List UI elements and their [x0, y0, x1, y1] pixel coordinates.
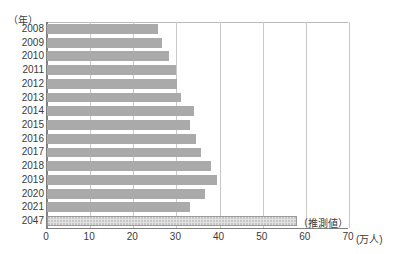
bar-2016	[47, 134, 196, 144]
bar-row	[47, 79, 349, 89]
y-tick-2019: 2019	[0, 174, 44, 185]
bar-2011	[47, 65, 176, 75]
x-tick-60: 60	[299, 231, 310, 242]
x-tick-50: 50	[256, 231, 267, 242]
x-tick-70: 70	[342, 231, 353, 242]
bar-row	[47, 65, 349, 75]
forecast-annotation: （推測値）	[298, 215, 348, 230]
bar-2009	[47, 38, 162, 48]
bar-2014	[47, 106, 194, 116]
y-tick-2008: 2008	[0, 23, 44, 34]
y-tick-2015: 2015	[0, 119, 44, 130]
bar-2019	[47, 175, 217, 185]
y-tick-2018: 2018	[0, 160, 44, 171]
bar-row	[47, 106, 349, 116]
bar-row	[47, 189, 349, 199]
y-tick-2012: 2012	[0, 78, 44, 89]
y-tick-2047: 2047	[0, 215, 44, 226]
y-tick-2010: 2010	[0, 50, 44, 61]
bar-row	[47, 161, 349, 171]
bar-row	[47, 38, 349, 48]
y-tick-2021: 2021	[0, 201, 44, 212]
bar-2013	[47, 93, 181, 103]
x-tick-10: 10	[84, 231, 95, 242]
y-tick-2011: 2011	[0, 64, 44, 75]
y-tick-2017: 2017	[0, 146, 44, 157]
bar-row	[47, 24, 349, 34]
bar-row	[47, 134, 349, 144]
y-tick-2013: 2013	[0, 92, 44, 103]
bar-2017	[47, 148, 201, 158]
bar-row	[47, 202, 349, 212]
bar-row	[47, 148, 349, 158]
bar-2008	[47, 24, 158, 34]
bar-row	[47, 120, 349, 130]
x-tick-40: 40	[213, 231, 224, 242]
x-tick-0: 0	[43, 231, 49, 242]
y-tick-2016: 2016	[0, 133, 44, 144]
bar-row	[47, 51, 349, 61]
bar-2010	[47, 51, 169, 61]
y-tick-2020: 2020	[0, 188, 44, 199]
chart-figure: （年） 200820092010201120122013201420152016…	[0, 0, 393, 254]
bar-2018	[47, 161, 211, 171]
x-tick-20: 20	[127, 231, 138, 242]
plot-area	[46, 22, 348, 228]
bar-row	[47, 93, 349, 103]
x-axis-unit-label: (万人)	[356, 231, 383, 246]
bar-2021	[47, 202, 190, 212]
bar-row	[47, 175, 349, 185]
x-tick-30: 30	[170, 231, 181, 242]
gridline-70	[349, 22, 350, 228]
y-tick-2014: 2014	[0, 105, 44, 116]
bar-2012	[47, 79, 177, 89]
bar-2020	[47, 189, 205, 199]
y-tick-2009: 2009	[0, 37, 44, 48]
bar-2047	[47, 216, 297, 226]
bar-2015	[47, 120, 190, 130]
